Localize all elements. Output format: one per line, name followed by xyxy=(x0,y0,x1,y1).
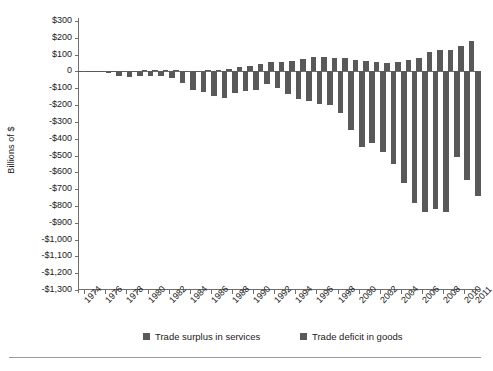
bar-goods xyxy=(285,71,291,93)
bar-goods xyxy=(243,71,249,91)
bar-services xyxy=(300,59,306,71)
y-tick-label: -$1,200 xyxy=(41,267,72,277)
bar-goods xyxy=(422,71,428,212)
x-tick-label: 1978 xyxy=(124,284,145,305)
bar-services xyxy=(99,71,105,72)
legend-swatch-services-icon xyxy=(143,333,150,340)
bar-services xyxy=(384,63,390,72)
y-tick-mark xyxy=(75,290,79,291)
x-minor-tick-mark xyxy=(443,290,444,293)
x-tick-label: 2006 xyxy=(420,284,441,305)
bar-services xyxy=(395,62,401,71)
y-tick-label: -$400 xyxy=(49,133,72,143)
y-tick-label: -$800 xyxy=(49,200,72,210)
y-tick-label: -$1,100 xyxy=(41,250,72,260)
bar-goods xyxy=(454,71,460,157)
x-tick-label: 2004 xyxy=(399,284,420,305)
bar-services xyxy=(142,70,148,71)
bar-goods xyxy=(85,71,91,72)
bar-goods xyxy=(391,71,397,163)
x-tick-label: 1990 xyxy=(251,284,272,305)
bar-services xyxy=(247,66,253,71)
x-tick-label: 1992 xyxy=(272,284,293,305)
x-minor-tick-mark xyxy=(116,290,117,293)
legend-item-goods: Trade deficit in goods xyxy=(300,331,402,342)
bar-services xyxy=(89,71,95,72)
bar-goods xyxy=(232,71,238,92)
bar-goods xyxy=(338,71,344,113)
bar-services xyxy=(78,71,84,72)
x-minor-tick-mark xyxy=(137,290,138,293)
bar-services xyxy=(194,71,200,72)
y-tick-label: $200 xyxy=(52,32,72,42)
legend-item-services: Trade surplus in services xyxy=(143,331,260,342)
bar-goods xyxy=(137,71,143,76)
bar-goods xyxy=(106,71,112,73)
x-minor-tick-mark xyxy=(475,290,476,293)
bar-goods xyxy=(275,71,281,87)
bar-goods xyxy=(475,71,481,195)
x-tick-label: 1984 xyxy=(188,284,209,305)
y-tick-mark xyxy=(75,105,79,106)
bar-services xyxy=(268,62,274,71)
bar-goods xyxy=(211,71,217,95)
bar-services xyxy=(121,71,127,72)
x-minor-tick-mark xyxy=(158,290,159,293)
bar-services xyxy=(469,41,475,71)
x-minor-tick-mark xyxy=(338,290,339,293)
bar-goods xyxy=(306,71,312,100)
y-tick-label: -$1,000 xyxy=(41,234,72,244)
y-tick-label: 0 xyxy=(67,65,72,75)
bar-goods xyxy=(412,71,418,203)
x-tick-label: 2000 xyxy=(357,284,378,305)
bar-services xyxy=(353,60,359,72)
bar-services xyxy=(342,58,348,72)
bar-goods xyxy=(327,71,333,104)
bar-services xyxy=(205,70,211,71)
bar-services xyxy=(437,50,443,71)
x-tick-label: 1980 xyxy=(146,284,167,305)
x-minor-tick-mark xyxy=(422,290,423,293)
y-tick-label: -$300 xyxy=(49,116,72,126)
y-axis-title: Billions of $ xyxy=(2,0,20,300)
bar-goods xyxy=(464,71,470,180)
y-tick-label: $100 xyxy=(52,49,72,59)
y-tick-mark xyxy=(75,139,79,140)
x-tick-label: 2002 xyxy=(378,284,399,305)
x-minor-tick-mark xyxy=(274,290,275,293)
bar-goods xyxy=(201,71,207,92)
bar-services xyxy=(258,64,264,72)
x-minor-tick-mark xyxy=(464,290,465,293)
bar-services xyxy=(416,58,422,71)
y-tick-mark xyxy=(75,256,79,257)
x-minor-tick-mark xyxy=(253,290,254,293)
y-tick-label: -$1,300 xyxy=(41,284,72,294)
x-minor-tick-mark xyxy=(348,290,349,293)
bar-services xyxy=(163,70,169,72)
x-minor-tick-mark xyxy=(411,290,412,293)
bar-goods xyxy=(158,71,164,76)
x-minor-tick-mark xyxy=(454,290,455,293)
y-tick-mark xyxy=(75,122,79,123)
x-minor-tick-mark xyxy=(105,290,106,293)
bar-goods xyxy=(253,71,259,90)
bar-services xyxy=(289,61,295,72)
chart-legend: Trade surplus in services Trade deficit … xyxy=(0,331,490,347)
bar-goods xyxy=(401,71,407,183)
bar-goods xyxy=(348,71,354,129)
footer-divider xyxy=(9,357,481,358)
x-minor-tick-mark xyxy=(243,290,244,293)
y-tick-mark xyxy=(75,189,79,190)
bar-services xyxy=(427,52,433,71)
y-tick-label: -$200 xyxy=(49,99,72,109)
y-tick-label: -$600 xyxy=(49,166,72,176)
y-tick-mark xyxy=(75,38,79,39)
bar-goods xyxy=(369,71,375,143)
x-minor-tick-mark xyxy=(380,290,381,293)
y-tick-mark xyxy=(75,206,79,207)
bar-goods xyxy=(95,71,101,72)
y-tick-label: -$100 xyxy=(49,82,72,92)
y-tick-mark xyxy=(75,21,79,22)
bar-goods xyxy=(296,71,302,99)
bar-services xyxy=(279,62,285,72)
